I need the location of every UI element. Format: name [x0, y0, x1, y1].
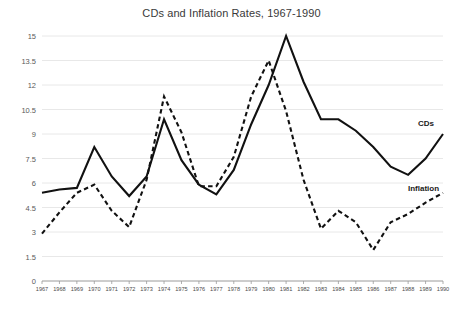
x-axis-tick-label: 1986 — [367, 286, 379, 292]
x-axis-tick-label: 1983 — [315, 286, 327, 292]
x-axis-tick-label: 1990 — [437, 286, 449, 292]
y-axis-tick-label: 0 — [10, 277, 36, 286]
x-axis-tick-label: 1985 — [350, 286, 362, 292]
series-label-inflation: Inflation — [408, 184, 439, 193]
x-axis-tick-label: 1973 — [140, 286, 152, 292]
chart-plot-area — [0, 0, 463, 309]
series-line-cds — [42, 36, 443, 196]
y-axis-tick-label: 12 — [10, 81, 36, 90]
y-axis-tick-label: 9 — [10, 130, 36, 139]
x-axis-tick-label: 1977 — [210, 286, 222, 292]
x-axis-tick-label: 1967 — [36, 286, 48, 292]
x-axis-tick-label: 1981 — [280, 286, 292, 292]
x-axis-tick-label: 1979 — [245, 286, 257, 292]
x-axis-tick-label: 1987 — [384, 286, 396, 292]
y-axis-tick-label: 15 — [10, 32, 36, 41]
y-axis-tick-label: 1.5 — [10, 252, 36, 261]
x-axis-tick-label: 1972 — [123, 286, 135, 292]
x-axis-tick-label: 1984 — [332, 286, 344, 292]
series-label-cds: CDs — [418, 119, 434, 128]
x-axis-tick-label: 1975 — [175, 286, 187, 292]
y-axis-tick-label: 13.5 — [10, 56, 36, 65]
x-axis-tick-label: 1970 — [88, 286, 100, 292]
y-axis-tick-label: 10.5 — [10, 105, 36, 114]
x-axis-tick-label: 1971 — [106, 286, 118, 292]
x-axis-tick-label: 1988 — [402, 286, 414, 292]
series-line-inflation — [42, 61, 443, 250]
x-axis-tick-label: 1976 — [193, 286, 205, 292]
y-axis-tick-label: 6 — [10, 179, 36, 188]
y-axis-tick-label: 4.5 — [10, 203, 36, 212]
y-axis-tick-label: 7.5 — [10, 154, 36, 163]
y-axis-tick-label: 3 — [10, 228, 36, 237]
x-axis-tick-label: 1968 — [53, 286, 65, 292]
x-axis-tick-label: 1969 — [71, 286, 83, 292]
x-axis-tick-label: 1982 — [297, 286, 309, 292]
x-axis-tick-label: 1989 — [419, 286, 431, 292]
x-axis-tick-label: 1974 — [158, 286, 170, 292]
x-axis-tick-label: 1978 — [228, 286, 240, 292]
chart-container: CDs and Inflation Rates, 1967-1990 01.53… — [0, 0, 463, 309]
x-axis-tick-label: 1980 — [262, 286, 274, 292]
